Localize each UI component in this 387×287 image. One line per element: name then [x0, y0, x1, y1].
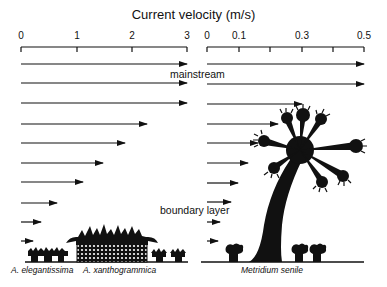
- right-velocity-axis: [207, 47, 364, 52]
- right-velocity-arrows: [207, 64, 364, 241]
- species-label-metridium-senile: Metridium senile: [241, 266, 303, 275]
- axis-tick-label: 0: [18, 31, 24, 41]
- velocity-profile-diagram: [0, 0, 387, 287]
- axis-tick-label: 0.3: [295, 31, 309, 41]
- a-xanthogrammica-anemone: [66, 224, 158, 262]
- axis-tick-label: 1: [74, 31, 80, 41]
- axis-tick-label: 0.5: [357, 31, 371, 41]
- chart-title: Current velocity (m/s): [0, 8, 387, 21]
- left-velocity-axis: [21, 47, 187, 52]
- species-label-a-elegantissima: A. elegantissima: [11, 266, 73, 275]
- metridium-senile-anemone: [225, 104, 367, 262]
- axis-tick-label: 3: [184, 31, 190, 41]
- axis-tick-label: 0: [204, 31, 210, 41]
- mainstream-label: mainstream: [170, 69, 225, 80]
- axis-tick-label: 2: [129, 31, 135, 41]
- species-label-a-xanthogrammica: A. xanthogrammica: [83, 266, 156, 275]
- axis-tick-label: 0.1: [232, 31, 246, 41]
- boundary-layer-label: boundary layer: [160, 205, 229, 216]
- a-elegantissima-anemones-left: [28, 247, 68, 262]
- a-elegantissima-anemones-right: [151, 248, 186, 262]
